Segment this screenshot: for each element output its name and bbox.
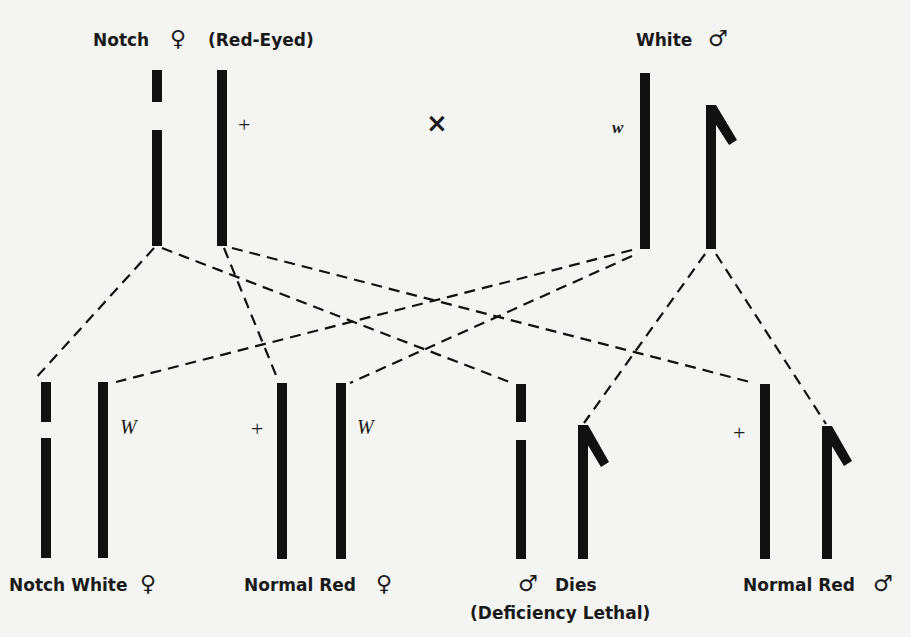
cross-symbol: ×	[426, 108, 448, 138]
male-symbol-icon: ♂	[708, 26, 728, 51]
line-w-to-offspring2	[350, 256, 632, 383]
offspring3-notch-bottom	[516, 440, 526, 559]
offspring3-note: (Deficiency Lethal)	[470, 603, 650, 623]
offspring2-w-allele: W	[357, 416, 374, 439]
line-w-to-offspring1	[116, 250, 632, 382]
female-symbol-icon: ♀	[170, 26, 186, 51]
line-y-to-offspring4	[716, 254, 826, 424]
offspring1-w-allele: W	[120, 416, 137, 439]
line-plus-to-offspring2	[224, 248, 278, 380]
y-chromosome	[706, 105, 716, 249]
offspring1-notch-top	[41, 382, 51, 422]
inheritance-lines	[34, 248, 826, 424]
offspring4-y-chromosome	[822, 426, 832, 559]
line-plus-to-offspring4	[232, 248, 754, 383]
offspring4-label: Normal Red	[743, 575, 855, 595]
offspring4-plus-allele: +	[733, 420, 745, 446]
offspring3-y-chromosome	[578, 425, 588, 559]
notch-female-phenotype: (Red-Eyed)	[208, 30, 314, 50]
chromosome-diagram	[0, 0, 911, 637]
offspring2-plus-chromosome	[277, 383, 287, 559]
offspring2-label: Normal Red	[244, 575, 356, 595]
parent-chromosomes	[152, 70, 737, 249]
offspring-chromosomes	[41, 382, 852, 559]
offspring4-male-icon: ♂	[873, 571, 893, 596]
line-notch-to-offspring3	[162, 248, 512, 383]
notch-chromosome-bottom-segment	[152, 130, 162, 246]
offspring1-w-chromosome	[98, 382, 108, 558]
offspring1-label: Notch White	[9, 575, 127, 595]
plus-chromosome	[217, 70, 227, 246]
offspring2-w-chromosome	[336, 383, 346, 559]
notch-chromosome-top-segment	[152, 70, 162, 102]
white-male-name: White	[636, 30, 692, 50]
offspring1-female-icon: ♀	[140, 571, 156, 596]
white-x-chromosome	[640, 73, 650, 249]
offspring4-plus-chromosome	[760, 384, 770, 559]
offspring3-male-icon: ♂	[518, 571, 538, 596]
line-notch-to-offspring1	[34, 248, 154, 380]
parent-plus-allele: +	[238, 112, 250, 138]
notch-female-name: Notch	[93, 30, 149, 50]
line-y-to-offspring3	[584, 254, 705, 423]
genetics-cross-diagram: Notch ♀ (Red-Eyed) + × White ♂ w W + W +…	[0, 0, 911, 637]
offspring2-plus-allele: +	[251, 416, 263, 442]
offspring3-notch-top	[516, 384, 526, 422]
parent-w-allele: w	[612, 118, 623, 138]
offspring3-label: Dies	[555, 575, 597, 595]
offspring2-female-icon: ♀	[376, 571, 392, 596]
offspring1-notch-bottom	[41, 438, 51, 558]
